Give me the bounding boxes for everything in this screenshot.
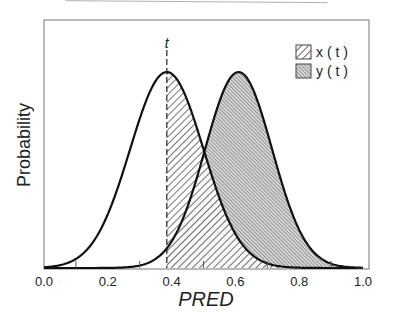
x-tick-label: 0.6: [226, 274, 244, 289]
x-tick-label: 0.8: [290, 274, 308, 289]
legend: x ( t ) y ( t ): [296, 44, 348, 79]
x-tick-label: 1.0: [354, 274, 372, 289]
threshold-label: t: [165, 35, 170, 51]
x-axis-label: PRED: [178, 288, 234, 310]
x-tick-label: 0.0: [35, 274, 53, 289]
legend-swatch-x: [296, 45, 311, 59]
legend-swatch-y: [296, 64, 311, 78]
legend-label-y: y ( t ): [316, 63, 348, 79]
legend-label-x: x ( t ): [316, 44, 348, 60]
x-tick-label: 0.4: [163, 274, 181, 289]
y-axis-label: Probability: [14, 103, 34, 187]
chart: t 0.00.20.40.60.81.0 PRED Probability x …: [0, 0, 393, 332]
x-tick-label: 0.2: [99, 274, 117, 289]
x-tick-labels: 0.00.20.40.60.81.0: [35, 274, 372, 289]
